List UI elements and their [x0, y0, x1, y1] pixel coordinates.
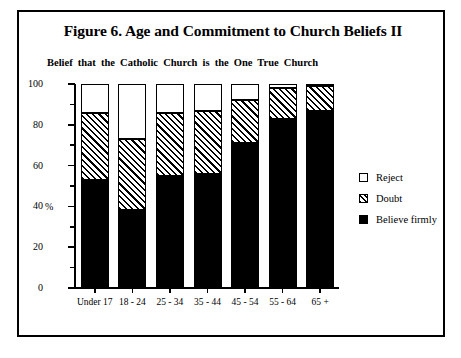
bar-group: [194, 84, 222, 288]
bar-segment: [118, 139, 146, 210]
bar-segment: [194, 111, 222, 174]
y-axis-tick-label: 100: [3, 79, 43, 89]
y-axis-tick: [68, 124, 75, 126]
bar-group: [118, 84, 146, 288]
bar-segment: [81, 180, 109, 288]
x-axis-tick: [207, 287, 209, 293]
figure-frame: Figure 6. Age and Commitment to Church B…: [17, 10, 445, 337]
legend-label: Doubt: [376, 193, 402, 204]
y-axis-minor-tick: [70, 185, 75, 187]
legend-label: Reject: [376, 172, 403, 183]
bar-group: [269, 84, 297, 288]
legend-item: Doubt: [359, 188, 449, 209]
bar-segment: [194, 84, 222, 111]
chart-legend: RejectDoubtBelieve firmly: [359, 167, 449, 230]
figure-subtitle: Belief that the Catholic Church is the O…: [47, 57, 427, 68]
x-axis-tick: [94, 287, 96, 293]
y-axis-tick: [68, 246, 75, 248]
x-axis-tick: [132, 287, 134, 293]
legend-item: Reject: [359, 167, 449, 188]
y-axis-tick-label: 0: [3, 283, 43, 293]
bar-segment: [269, 84, 297, 88]
bar-segment: [269, 119, 297, 288]
bar-segment: [118, 84, 146, 139]
figure-title: Figure 6. Age and Commitment to Church B…: [19, 22, 447, 40]
bar-segment: [306, 111, 334, 288]
y-axis-tick-label: 40: [3, 201, 43, 211]
bar-segment: [194, 174, 222, 288]
chart-plot-area: % 020406080100 Under 1718 - 2425 - 3435 …: [49, 84, 339, 299]
legend-swatch: [359, 194, 368, 203]
x-axis-tick: [319, 287, 321, 293]
bar-segment: [81, 113, 109, 180]
x-axis-tick: [244, 287, 246, 293]
bar-group: [306, 84, 334, 288]
bar-segment: [231, 84, 259, 100]
y-axis-minor-tick: [70, 144, 75, 146]
y-axis-tick-label: 80: [3, 120, 43, 130]
x-axis-tick: [282, 287, 284, 293]
y-axis-tick: [68, 165, 75, 167]
bar-segment: [306, 86, 334, 110]
y-axis-tick: [68, 83, 75, 85]
bar-segment: [306, 84, 334, 86]
legend-swatch: [359, 215, 368, 224]
y-axis-tick: [68, 206, 75, 208]
bar-segment: [156, 176, 184, 288]
bar-group: [81, 84, 109, 288]
legend-swatch: [359, 173, 368, 182]
bar-segment: [269, 88, 297, 119]
legend-item: Believe firmly: [359, 209, 449, 230]
y-axis-minor-tick: [70, 267, 75, 269]
x-axis-tick: [169, 287, 171, 293]
bars-layer: [76, 84, 339, 288]
bar-segment: [156, 113, 184, 176]
y-axis-tick-label: 60: [3, 161, 43, 171]
legend-label: Believe firmly: [376, 214, 437, 225]
bar-segment: [118, 210, 146, 288]
bar-segment: [231, 100, 259, 143]
y-axis-title: %: [45, 201, 53, 212]
y-axis-tick: [68, 287, 75, 289]
bar-segment: [156, 84, 184, 113]
bar-segment: [231, 143, 259, 288]
y-axis-minor-tick: [70, 104, 75, 106]
bar-group: [156, 84, 184, 288]
y-axis-tick-label: 20: [3, 242, 43, 252]
bar-group: [231, 84, 259, 288]
x-axis-tick-label: 65 +: [290, 297, 350, 307]
bar-segment: [81, 84, 109, 113]
y-axis-minor-tick: [70, 226, 75, 228]
